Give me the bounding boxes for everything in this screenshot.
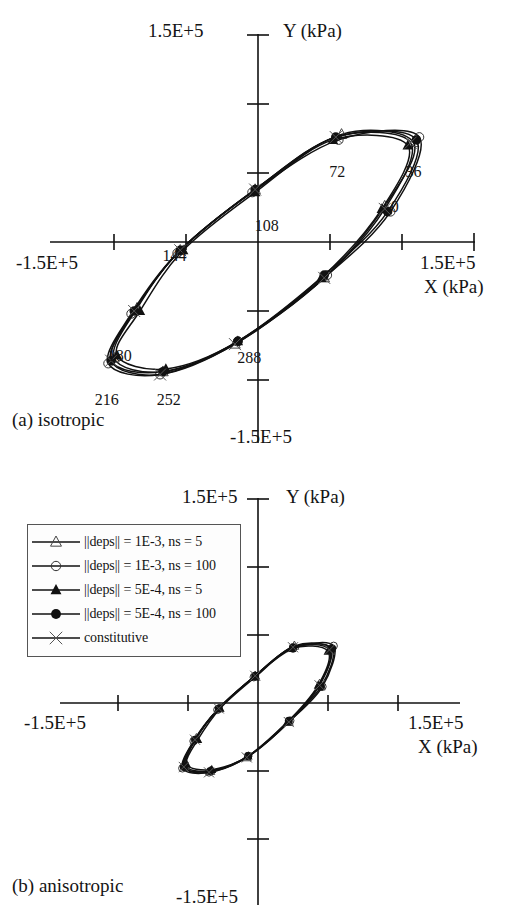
panel-b-y-axis-title: Y (kPa) xyxy=(286,486,345,508)
panel-b-y-max-label: 1.5E+5 xyxy=(182,486,238,508)
panel-a-y-min-label: -1.5E+5 xyxy=(230,426,292,448)
panel-b-y-min-label: -1.5E+5 xyxy=(176,886,238,908)
panel-a-y-axis-title: Y (kPa) xyxy=(283,20,342,42)
legend-item-label: constitutive xyxy=(84,630,148,646)
legend-item-label: ||deps|| = 5E-4, ns = 100 xyxy=(84,606,216,622)
phase-annotation: 252 xyxy=(157,391,181,408)
legend-item-filled-circle: ||deps|| = 5E-4, ns = 100 xyxy=(28,602,240,626)
panel-b-caption: (b) anisotropic xyxy=(12,875,123,897)
filled-circle-marker xyxy=(51,609,61,619)
open-triangle-icon xyxy=(28,531,84,553)
legend: ||deps|| = 1E-3, ns = 5||deps|| = 1E-3, … xyxy=(27,524,241,657)
legend-item-label: ||deps|| = 5E-4, ns = 5 xyxy=(84,582,202,598)
panel-a-x-min-label: -1.5E+5 xyxy=(16,252,78,274)
phase-annotation: 144 xyxy=(162,247,186,264)
panel-a-plot: 03672108144180216252288 xyxy=(0,0,532,460)
filled-triangle-marker xyxy=(51,584,62,594)
phase-annotation: 0 xyxy=(391,198,399,215)
legend-item-cross: constitutive xyxy=(28,626,240,650)
panel-a-caption: (a) isotropic xyxy=(12,409,104,431)
phase-annotation: 216 xyxy=(95,391,119,408)
legend-item-label: ||deps|| = 1E-3, ns = 5 xyxy=(84,534,202,550)
phase-annotation: 72 xyxy=(329,163,345,180)
panel-a-y-max-label: 1.5E+5 xyxy=(148,20,204,42)
panel-a-x-axis-title: X (kPa) xyxy=(424,276,484,298)
cross-icon xyxy=(28,627,84,649)
filled-triangle-icon xyxy=(28,579,84,601)
legend-item-filled-triangle: ||deps|| = 5E-4, ns = 5 xyxy=(28,578,240,602)
open-triangle-marker xyxy=(51,536,62,546)
filled-circle-marker xyxy=(285,717,293,725)
legend-item-open-circle: ||deps|| = 1E-3, ns = 100 xyxy=(28,554,240,578)
series-curve xyxy=(183,645,330,773)
filled-circle-icon xyxy=(28,603,84,625)
legend-item-open-triangle: ||deps|| = 1E-3, ns = 5 xyxy=(28,530,240,554)
open-circle-icon xyxy=(28,555,84,577)
legend-item-label: ||deps|| = 1E-3, ns = 100 xyxy=(84,558,216,574)
phase-annotation: 180 xyxy=(108,347,132,364)
figure-root: 03672108144180216252288 1.5E+5 Y (kPa) -… xyxy=(0,0,532,909)
phase-annotation: 108 xyxy=(255,217,279,234)
panel-b-x-max-label: 1.5E+5 xyxy=(408,712,464,734)
series-curve xyxy=(110,131,418,373)
panel-b-x-axis-title: X (kPa) xyxy=(418,736,478,758)
series-curve xyxy=(107,130,421,375)
panel-b-x-min-label: -1.5E+5 xyxy=(24,712,86,734)
series-curve xyxy=(113,130,415,372)
series-curve xyxy=(110,132,412,375)
phase-annotation: 36 xyxy=(406,163,422,180)
series-curve xyxy=(116,135,410,369)
panel-a-x-max-label: 1.5E+5 xyxy=(420,252,476,274)
phase-annotation: 288 xyxy=(237,349,261,366)
